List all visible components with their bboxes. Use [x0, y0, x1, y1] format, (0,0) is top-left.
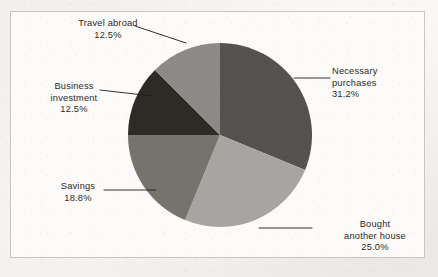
pie-label-necessary-purchases-text-line2: purchases	[332, 78, 436, 90]
pie-label-business-investment-text-line1: Business	[22, 81, 126, 93]
pie-label-necessary-purchases-text-line1: Necessary	[332, 66, 436, 78]
pie-label-savings-text: Savings	[26, 181, 130, 193]
pie-label-business-investment-percent: 12.5%	[22, 104, 126, 116]
pie-label-bought-another-house: Bought another house 25.0%	[316, 219, 434, 254]
pie-label-savings-percent: 18.8%	[26, 193, 130, 205]
pie-label-bought-another-house-percent: 25.0%	[316, 242, 434, 254]
pie-label-necessary-purchases: Necessary purchases 31.2%	[332, 66, 436, 101]
pie-label-bought-another-house-text-line2: another house	[316, 231, 434, 243]
pie-label-travel-abroad-text: Travel abroad	[56, 18, 160, 30]
pie-label-travel-abroad: Travel abroad 12.5%	[56, 18, 160, 41]
pie-slices-group	[128, 43, 312, 227]
pie-label-necessary-purchases-percent: 31.2%	[332, 89, 436, 101]
pie-label-savings: Savings 18.8%	[26, 181, 130, 204]
pie-label-bought-another-house-text-line1: Bought	[316, 219, 434, 231]
chart-page: Travel abroad 12.5% Business investment …	[0, 0, 438, 277]
pie-label-business-investment: Business investment 12.5%	[22, 81, 126, 116]
pie-label-business-investment-text-line2: investment	[22, 93, 126, 105]
pie-label-travel-abroad-percent: 12.5%	[56, 30, 160, 42]
